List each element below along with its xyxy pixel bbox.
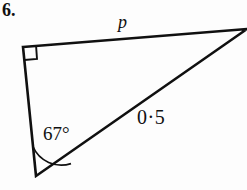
triangle-outline bbox=[23, 29, 247, 176]
geometry-figure: 6. p 0·5 67° bbox=[0, 0, 247, 190]
side-label-p: p bbox=[118, 13, 127, 31]
angle-label: 67° bbox=[43, 124, 70, 143]
right-angle-square-icon bbox=[24, 46, 37, 60]
side-label-hypotenuse: 0·5 bbox=[137, 107, 165, 127]
